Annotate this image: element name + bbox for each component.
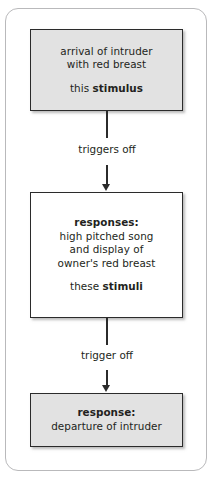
node-stimulus-line-2: with red breast: [67, 58, 146, 72]
flowchart-flow: arrival of intruder with red breast this…: [0, 0, 214, 479]
connector-trigger-off: trigger off: [0, 318, 214, 393]
connector-trigger-off-segment-bottom: [106, 370, 108, 386]
node-stimulus-label-emphasis: stimulus: [93, 82, 143, 94]
arrow-head-icon: [102, 184, 110, 191]
connector-triggers-off: triggers off: [0, 111, 214, 192]
node-responses: responses: high pitched song and display…: [30, 192, 183, 318]
node-responses-line-1: high pitched song: [60, 230, 154, 244]
node-response-heading: response:: [77, 406, 135, 420]
node-responses-line-3: owner's red breast: [58, 257, 156, 271]
arrow-head-icon: [102, 385, 110, 392]
node-stimulus-label: this stimulus: [70, 82, 143, 96]
connector-trigger-off-label: trigger off: [0, 349, 214, 361]
node-responses-label-prefix: these: [70, 280, 102, 292]
node-responses-heading: responses:: [74, 216, 138, 230]
connector-triggers-off-label: triggers off: [0, 143, 214, 155]
node-stimulus-line-1: arrival of intruder: [60, 45, 152, 59]
connector-triggers-off-segment-bottom: [106, 165, 108, 185]
connector-triggers-off-segment-top: [106, 111, 108, 138]
connector-trigger-off-segment-top: [106, 318, 108, 345]
node-response: response: departure of intruder: [30, 393, 183, 447]
node-stimulus-label-prefix: this: [70, 82, 93, 94]
node-responses-line-2: and display of: [70, 243, 144, 257]
node-stimulus: arrival of intruder with red breast this…: [30, 29, 183, 111]
flowchart-figure: arrival of intruder with red breast this…: [0, 0, 214, 479]
node-response-line-1: departure of intruder: [51, 420, 162, 434]
node-responses-label: these stimuli: [70, 280, 143, 294]
node-responses-label-emphasis: stimuli: [103, 280, 143, 292]
